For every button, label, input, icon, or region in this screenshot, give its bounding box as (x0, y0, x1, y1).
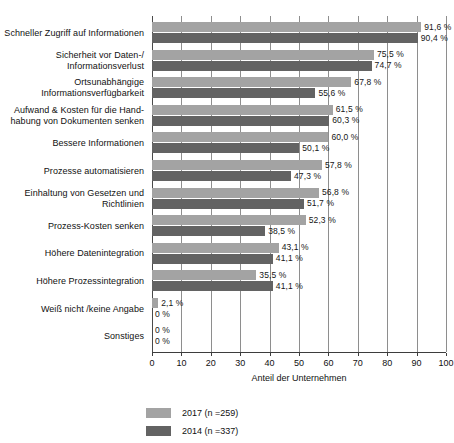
x-tick-mark (328, 353, 329, 356)
category-label-line: Informationsverlust (0, 61, 144, 72)
bar-2014 (152, 171, 291, 181)
bar-value-label: 50,1 % (302, 143, 329, 153)
bar-2017 (152, 270, 256, 280)
bar-value-label: 56,8 % (322, 187, 349, 197)
category-label-line: Prozesse automatisieren (0, 166, 144, 177)
category-label: Einhaltung von Gesetzen undRichtlinien (0, 188, 144, 210)
bar-value-label: 0 % (155, 336, 170, 346)
category-label: Bessere Informationen (0, 138, 144, 149)
bar-2014 (152, 33, 418, 43)
bar-2017 (152, 22, 421, 32)
category-label: Höhere Datenintegration (0, 248, 144, 259)
category-label-line: Bessere Informationen (0, 138, 144, 149)
bar-group: 67,8 %55,6 % (152, 77, 446, 99)
bar-2017 (152, 215, 306, 225)
bar-group: 43,1 %41,1 % (152, 243, 446, 265)
x-tick-label: 100 (438, 357, 453, 369)
x-tick-label: 30 (235, 357, 245, 369)
bar-2017 (152, 160, 322, 170)
category-label: Schneller Zugriff auf Informationen (0, 28, 144, 39)
category-label: OrtsunabhängigeInformationsverfügbarkeit (0, 77, 144, 99)
bar-value-label: 0 % (155, 325, 170, 335)
legend-item[interactable]: 2017 (n =259) (146, 405, 346, 423)
legend-label: 2014 (n =337) (182, 425, 238, 437)
x-tick-mark (211, 353, 212, 356)
x-tick-label: 70 (353, 357, 363, 369)
bar-value-label: 43,1 % (282, 242, 309, 252)
legend-swatch (146, 408, 171, 418)
x-tick-mark (358, 353, 359, 356)
bar-group: 60,0 %50,1 % (152, 132, 446, 154)
x-tick-mark (181, 353, 182, 356)
bar-group: 75,5 %74,7 % (152, 50, 446, 72)
bar-group: 0 %0 % (152, 326, 446, 348)
legend-swatch (146, 426, 171, 436)
bar-2014 (152, 143, 299, 153)
category-label: Sicherheit vor Daten-/Informationsverlus… (0, 50, 144, 72)
bar-group: 57,8 %47,3 % (152, 160, 446, 182)
bar-value-label: 90,4 % (421, 33, 448, 43)
bar-value-label: 91,6 % (424, 22, 451, 32)
bar-value-label: 55,6 % (318, 88, 345, 98)
category-label-line: Sicherheit vor Daten-/ (0, 50, 144, 61)
category-label-line: Schneller Zugriff auf Informationen (0, 28, 144, 39)
x-axis-title: Anteil der Unternehmen (152, 372, 446, 384)
legend-item[interactable]: 2014 (n =337) (146, 423, 346, 441)
category-label-line: Weiß nicht /keine Angabe (0, 304, 144, 315)
bar-2014 (152, 61, 372, 71)
bar-value-label: 57,8 % (325, 160, 352, 170)
category-label: Prozess-Kosten senken (0, 221, 144, 232)
category-label-line: Aufwand & Kosten für die Hand- (0, 105, 144, 116)
chart-legend: 2017 (n =259)2014 (n =337) (146, 405, 346, 441)
bar-value-label: 67,8 % (354, 77, 381, 87)
bar-2017 (152, 132, 328, 142)
bar-group: 2,1 %0 % (152, 298, 446, 320)
bar-2017 (152, 298, 158, 308)
bar-group: 35,5 %41,1 % (152, 270, 446, 292)
x-tick-mark (446, 353, 447, 356)
plot-area: 91,6 %90,4 %75,5 %74,7 %67,8 %55,6 %61,5… (152, 16, 446, 352)
category-label-line: Informationsverfügbarkeit (0, 88, 144, 99)
x-axis-ticks: 0102030405060708090100 (152, 353, 446, 371)
x-tick-mark (417, 353, 418, 356)
bar-2017 (152, 50, 374, 60)
bar-value-label: 41,1 % (276, 281, 303, 291)
bar-value-label: 51,7 % (307, 198, 334, 208)
category-label-line: Einhaltung von Gesetzen und (0, 188, 144, 199)
bar-value-label: 41,1 % (276, 253, 303, 263)
x-tick-label: 40 (265, 357, 275, 369)
category-label: Sonstiges (0, 331, 144, 342)
bar-value-label: 60,3 % (332, 115, 359, 125)
bar-value-label: 35,5 % (259, 270, 286, 280)
x-tick-label: 0 (149, 357, 154, 369)
bar-chart: Schneller Zugriff auf InformationenSiche… (0, 0, 454, 443)
bar-value-label: 61,5 % (336, 104, 363, 114)
bar-value-label: 38,5 % (268, 226, 295, 236)
bar-2017 (152, 77, 351, 87)
legend-label: 2017 (n =259) (182, 407, 238, 419)
category-label: Höhere Prozessintegration (0, 276, 144, 287)
x-tick-mark (299, 353, 300, 356)
bar-2014 (152, 88, 315, 98)
category-label: Weiß nicht /keine Angabe (0, 304, 144, 315)
category-label-line: Sonstiges (0, 331, 144, 342)
bar-2014 (152, 254, 273, 264)
gridline-100 (446, 16, 447, 352)
bar-value-label: 47,3 % (294, 171, 321, 181)
category-label-line: Richtlinien (0, 199, 144, 210)
bar-2017 (152, 188, 319, 198)
x-tick-mark (387, 353, 388, 356)
bar-group: 56,8 %51,7 % (152, 188, 446, 210)
category-label-line: Ortsunabhängige (0, 77, 144, 88)
bar-2017 (152, 105, 333, 115)
x-tick-label: 10 (176, 357, 186, 369)
x-tick-mark (270, 353, 271, 356)
x-tick-label: 60 (323, 357, 333, 369)
category-label-line: Höhere Datenintegration (0, 248, 144, 259)
category-label-line: Prozess-Kosten senken (0, 221, 144, 232)
bar-group: 91,6 %90,4 % (152, 22, 446, 44)
category-axis-labels: Schneller Zugriff auf InformationenSiche… (0, 16, 148, 352)
category-label: Prozesse automatisieren (0, 166, 144, 177)
bar-value-label: 75,5 % (377, 49, 404, 59)
category-label: Aufwand & Kosten für die Hand-habung von… (0, 105, 144, 127)
